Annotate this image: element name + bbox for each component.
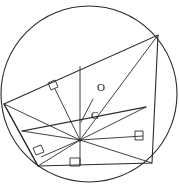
chord-right-upper — [80, 107, 146, 140]
label-G: G — [91, 109, 99, 121]
right-angle-mark-lower-left — [33, 145, 44, 155]
spoke-to-vertex-top-right — [80, 35, 158, 140]
perpendicular-to-upper-left-side — [55, 89, 80, 140]
central-hub-point — [78, 138, 81, 141]
geometry-figure-svg: O G — [0, 0, 179, 188]
spoke-to-vertex-bottom-right — [80, 140, 152, 163]
label-O: O — [97, 81, 105, 93]
right-angle-mark-right — [135, 131, 143, 140]
perpendicular-to-lower-left-side — [41, 140, 80, 157]
spoke-to-vertex-bottom-left — [38, 140, 80, 166]
geometry-figure-container: O G — [0, 0, 179, 188]
chord-across-lower — [22, 107, 146, 131]
perpendicular-to-right-side — [80, 136, 143, 140]
chord-left-side — [4, 104, 38, 166]
